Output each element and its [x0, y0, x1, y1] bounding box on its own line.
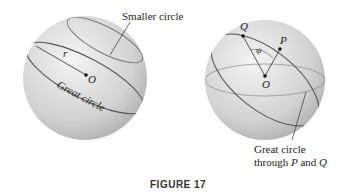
point-q — [241, 34, 245, 38]
point-p-label: P — [279, 34, 287, 46]
point-q-label: Q — [240, 20, 248, 32]
radius-label: r — [63, 47, 68, 59]
great-circle-pq-label-line2: through P and Q — [254, 156, 327, 168]
point-p — [278, 47, 282, 51]
left-sphere: r O Great circle Smaller circle — [17, 9, 183, 140]
sphere-body — [23, 16, 147, 140]
right-sphere: Q P ψ O Great circle through P and Q — [196, 17, 334, 168]
center-label-left: O — [88, 73, 96, 85]
center-label-right: O — [262, 78, 270, 90]
figure-canvas: r O Great circle Smaller circle Q P ψ O … — [0, 0, 347, 192]
angle-psi-label: ψ — [256, 45, 262, 55]
great-circle-pq-label-line1: Great circle — [254, 143, 306, 155]
smaller-circle-label: Smaller circle — [122, 10, 184, 22]
figure-caption: FIGURE 17 — [150, 179, 206, 190]
